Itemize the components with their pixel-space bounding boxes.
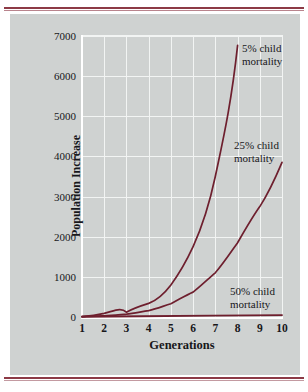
annotation-50-percent: 50% child mortality	[230, 285, 275, 310]
annotation-25-percent: 25% child mortality	[234, 139, 279, 164]
series-curves	[82, 36, 282, 317]
y-tick-1000: 1000	[12, 271, 76, 283]
x-tick-8: 8	[227, 322, 249, 334]
top-rule-secondary	[4, 10, 304, 11]
y-tick-6000: 6000	[12, 70, 76, 82]
annotation-5-percent-line2: mortality	[242, 55, 282, 68]
y-tick-7000: 7000	[12, 30, 76, 42]
x-tick-10: 10	[271, 322, 293, 334]
annotation-5-percent: 5% child mortality	[242, 42, 282, 67]
x-tick-6: 6	[182, 322, 204, 334]
y-tick-4000: 4000	[12, 150, 76, 162]
chart-panel: 1 2 3 4 5 6 7 8 9 10 0 1000 2000 3000 40…	[10, 14, 300, 375]
annotation-50-percent-line1: 50% child	[230, 285, 275, 298]
bottom-rule	[4, 377, 304, 379]
x-tick-1: 1	[71, 322, 93, 334]
plot-area: 1 2 3 4 5 6 7 8 9 10 0 1000 2000 3000 40…	[82, 36, 282, 317]
y-tick-0: 0	[12, 311, 76, 323]
x-tick-3: 3	[115, 322, 137, 334]
x-axis-title: Generations	[82, 338, 282, 353]
annotation-50-percent-line2: mortality	[230, 298, 275, 311]
top-rule	[4, 7, 304, 9]
x-tick-9: 9	[249, 322, 271, 334]
figure-root: 1 2 3 4 5 6 7 8 9 10 0 1000 2000 3000 40…	[0, 0, 308, 392]
y-tick-5000: 5000	[12, 110, 76, 122]
annotation-25-percent-line2: mortality	[234, 152, 279, 165]
x-tick-7: 7	[204, 322, 226, 334]
y-tick-3000: 3000	[12, 191, 76, 203]
annotation-5-percent-line1: 5% child	[242, 42, 282, 55]
curve-5-percent	[82, 45, 238, 316]
x-tick-4: 4	[138, 322, 160, 334]
y-tick-2000: 2000	[12, 231, 76, 243]
y-axis-title: Population Increase	[69, 135, 84, 237]
x-tick-5: 5	[160, 322, 182, 334]
bottom-rule-secondary	[4, 380, 304, 381]
annotation-25-percent-line1: 25% child	[234, 139, 279, 152]
plot-right-border	[282, 35, 283, 318]
x-tick-2: 2	[93, 322, 115, 334]
